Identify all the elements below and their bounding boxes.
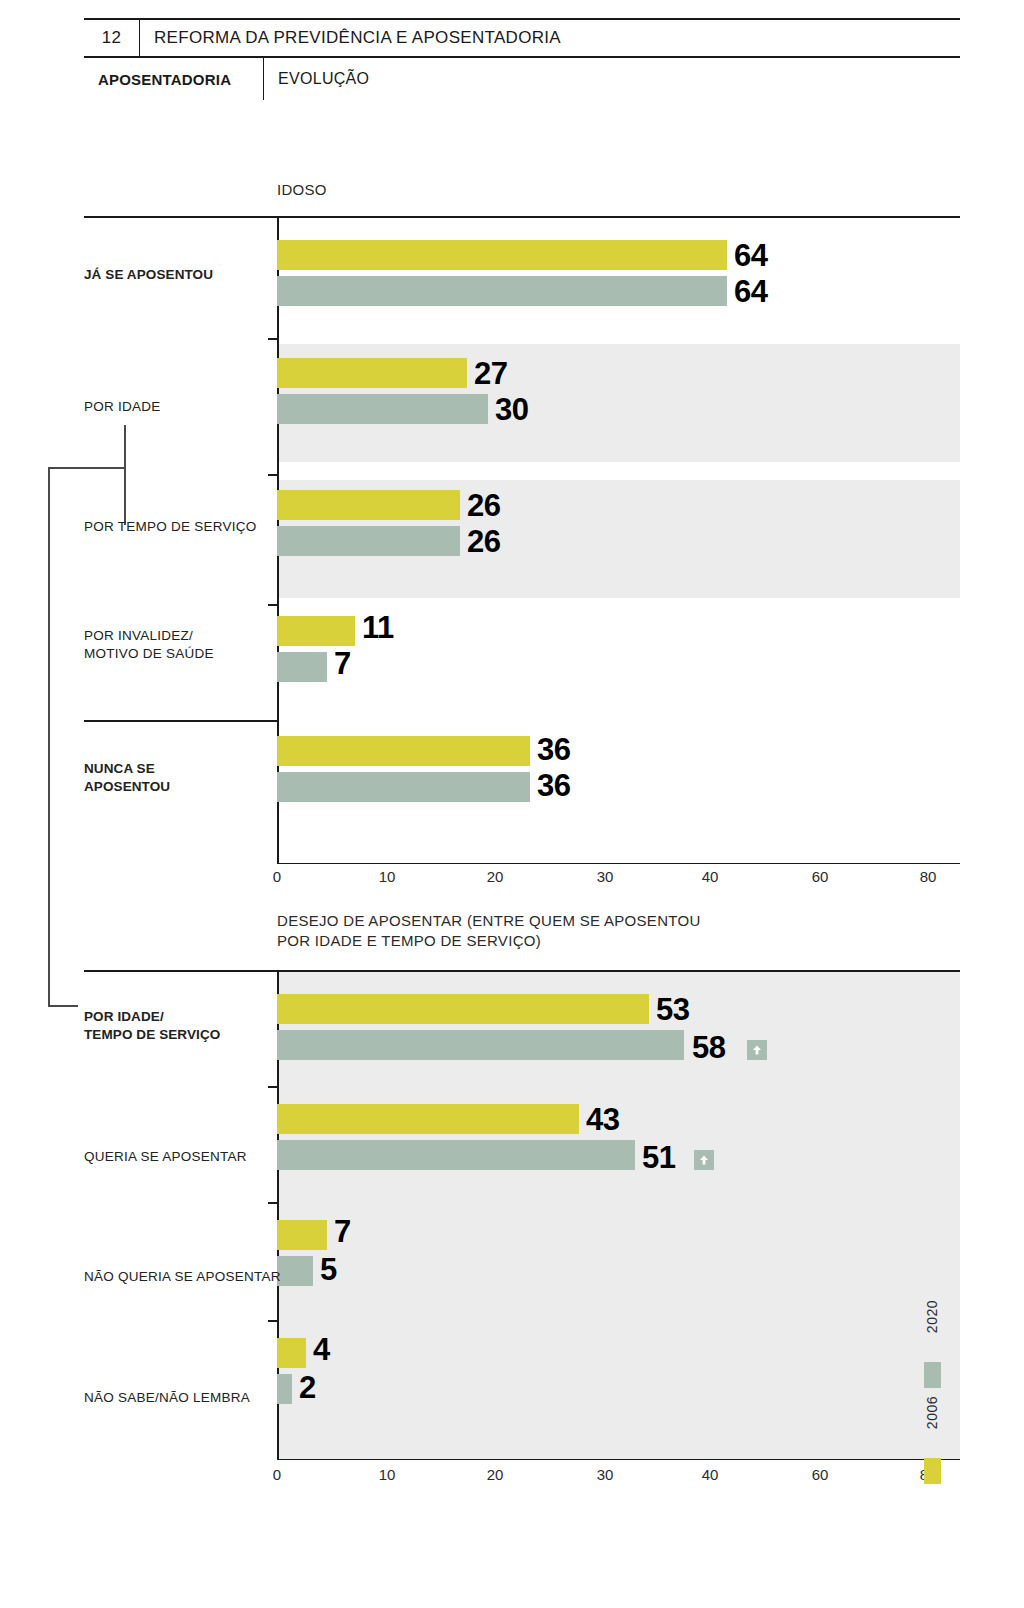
bar-2006 — [277, 1104, 579, 1134]
bar-value-2006: 43 — [586, 1104, 619, 1135]
bar-value-2020: 2 — [299, 1372, 316, 1403]
bar-2006 — [277, 1220, 327, 1250]
bar-value-2006: 4 — [313, 1334, 330, 1365]
chart2-x-axis — [277, 1459, 960, 1461]
chart2-cat-tick-1 — [268, 1086, 277, 1088]
legend-swatch-2006 — [924, 1458, 941, 1484]
x-tick-label: 60 — [800, 1466, 840, 1483]
x-tick-label: 30 — [585, 1466, 625, 1483]
chart-desejo-de-aposentar: DESEJO DE APOSENTAR (ENTRE QUEM SE APOSE… — [0, 0, 1024, 1530]
bar-2006 — [277, 994, 649, 1024]
bar-value-2006: 53 — [656, 994, 689, 1025]
bar-2006 — [277, 1338, 306, 1368]
chart2-cat-tick-3 — [268, 1320, 277, 1322]
bar-2020 — [277, 1030, 684, 1060]
x-tick-label: 0 — [257, 1466, 297, 1483]
legend-swatch-2020 — [924, 1362, 941, 1388]
chart-legend: 2020 2006 — [900, 1300, 960, 1470]
bar-value-2006: 7 — [334, 1216, 351, 1247]
bar-2020 — [277, 1140, 635, 1170]
chart2-cat-tick-2 — [268, 1202, 277, 1204]
x-tick-label: 10 — [367, 1466, 407, 1483]
row-label: NÃO QUERIA SE APOSENTAR — [84, 1268, 284, 1286]
x-tick-label: 40 — [690, 1466, 730, 1483]
chart2-title: DESEJO DE APOSENTAR (ENTRE QUEM SE APOSE… — [277, 911, 917, 952]
bar-value-2020: 5 — [320, 1254, 337, 1285]
bar-value-2020: 51 — [642, 1142, 675, 1173]
chart2-plot-area: 53 58 43 51 7 5 — [84, 970, 960, 1460]
legend-label-2020: 2020 — [924, 1300, 940, 1333]
increase-arrow-icon — [694, 1150, 714, 1170]
legend-label-2006: 2006 — [924, 1396, 940, 1429]
row-label: POR IDADE/ TEMPO DE SERVIÇO — [84, 1008, 274, 1043]
bar-value-2020: 58 — [692, 1032, 725, 1063]
row-label: QUERIA SE APOSENTAR — [84, 1148, 274, 1166]
x-tick-label: 20 — [475, 1466, 515, 1483]
increase-arrow-icon — [747, 1040, 767, 1060]
row-label: NÃO SABE/NÃO LEMBRA — [84, 1389, 284, 1407]
